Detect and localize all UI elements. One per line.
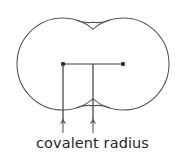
figure-container: covalent radius [0,0,185,158]
measure-arrows-group [60,118,96,133]
notch-mask-top [78,12,108,20]
right-nucleus-dot [121,62,125,66]
top-overlap-notch [77,20,110,22]
covalent-radius-caption: covalent radius [0,134,185,152]
